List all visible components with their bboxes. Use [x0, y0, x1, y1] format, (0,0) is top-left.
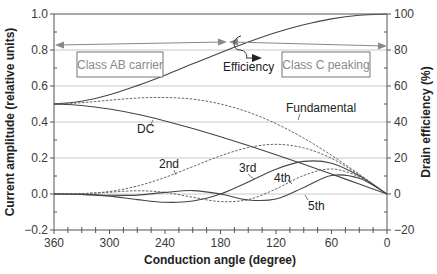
fundamental-label: Fundamental: [286, 101, 356, 115]
y2-tick-label: 60: [394, 79, 408, 93]
fifth-label: 5th: [308, 199, 325, 213]
y2-tick-label: 0: [394, 187, 401, 201]
class-ab-label: Class AB carrier: [77, 58, 163, 72]
tick-marks: [50, 14, 391, 234]
y2-tick-label: −20: [394, 223, 415, 237]
x-tick-label: 60: [325, 236, 339, 250]
y2-tick-label: 80: [394, 43, 408, 57]
y2-tick-label: 100: [394, 7, 414, 21]
y-tick-label: −0.2: [24, 223, 48, 237]
y-tick-label: 1.0: [31, 7, 48, 21]
x-tick-label: 0: [384, 236, 391, 250]
series-line-4th: [54, 169, 387, 202]
series-line-5th: [54, 175, 387, 201]
class-ab-box: Class AB carrier: [77, 52, 163, 77]
y-tick-label: 0.2: [31, 151, 48, 165]
x-tick-label: 120: [266, 236, 286, 250]
series-line-3rd: [54, 161, 387, 202]
second-label: 2nd: [159, 157, 179, 171]
arrowhead-left-icon: [55, 42, 64, 49]
y2-tick-label: 20: [394, 151, 408, 165]
y2-axis-title: Drain efficiency (%): [419, 66, 433, 177]
y2-tick-label: 40: [394, 115, 408, 129]
y-tick-label: 0.0: [31, 187, 48, 201]
class-c-box: Class C peaking: [282, 52, 370, 77]
series-line-dc: [54, 104, 387, 194]
arrowhead-right-icon: [218, 39, 227, 46]
y-tick-label: 0.6: [31, 79, 48, 93]
class-ab-arrow: [55, 39, 227, 49]
arrowhead-right-icon: [378, 43, 387, 50]
x-tick-label: 360: [44, 236, 64, 250]
x-axis-title: Conduction angle (degree): [144, 253, 296, 267]
fourth-label: 4th: [274, 171, 291, 185]
y-axis-title: Current amplitude (relative units): [3, 28, 17, 217]
fifth-leader: [305, 195, 308, 200]
third-label: 3rd: [239, 161, 256, 175]
harmonic-chart: −0.20.00.20.40.60.81.0−20020406080100360…: [0, 0, 437, 274]
x-tick-label: 300: [99, 236, 119, 250]
efficiency-label: Efficiency: [223, 60, 274, 74]
arrowhead-left-icon: [229, 39, 238, 46]
y-tick-label: 0.8: [31, 43, 48, 57]
y-tick-label: 0.4: [31, 115, 48, 129]
x-tick-label: 240: [155, 236, 175, 250]
class-c-label: Class C peaking: [282, 58, 369, 72]
x-tick-label: 180: [210, 236, 230, 250]
dc-label: DC: [137, 122, 155, 136]
